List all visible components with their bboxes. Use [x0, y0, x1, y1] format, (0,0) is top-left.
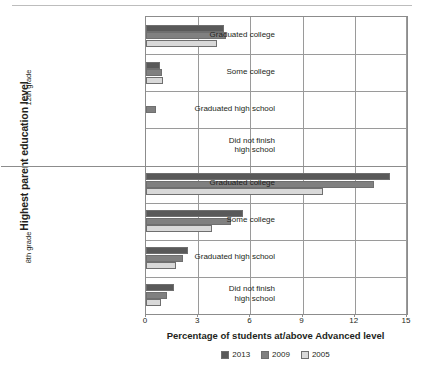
category-label-some-college: Some college: [115, 67, 275, 77]
legend-item-2005[interactable]: 2005: [301, 350, 330, 359]
x-tick-label-3: 3: [177, 316, 217, 325]
category-label-graduated-high-school: Graduated high school: [115, 252, 275, 262]
category-label-graduated-college: Graduated college: [115, 30, 275, 40]
x-tick-mark-6: [249, 314, 250, 317]
bar-2005-graduated-college[interactable]: [146, 40, 217, 47]
x-tick-label-0: 0: [125, 316, 165, 325]
bar-2005-some-college[interactable]: [146, 77, 163, 84]
category-label-graduated-college: Graduated college: [115, 178, 275, 188]
legend-label-2005: 2005: [312, 350, 330, 359]
legend-label-2013: 2013: [232, 350, 250, 359]
x-tick-mark-3: [197, 314, 198, 317]
chart-legend: 201320092005: [145, 350, 406, 359]
bar-2005-some-college[interactable]: [146, 225, 212, 232]
legend-swatch-2013: [221, 351, 229, 359]
legend-item-2013[interactable]: 2013: [221, 350, 250, 359]
x-tick-mark-9: [302, 314, 303, 317]
x-tick-label-9: 9: [282, 316, 322, 325]
category-label-some-college: Some college: [115, 215, 275, 225]
x-tick-label-12: 12: [334, 316, 374, 325]
group-label-8th-grade: 8th grade: [24, 218, 33, 278]
chart-figure: Highest parent education level 12th grad…: [0, 0, 424, 372]
top-divider-rule: [12, 5, 412, 6]
bar-2005-graduated-high-school[interactable]: [146, 262, 176, 269]
category-label-did-not-finish-high-school: Did not finishhigh school: [115, 136, 275, 155]
x-tick-mark-12: [354, 314, 355, 317]
legend-swatch-2005: [301, 351, 309, 359]
category-label-did-not-finish-high-school: Did not finishhigh school: [115, 284, 275, 303]
x-tick-mark-15: [406, 314, 407, 317]
legend-swatch-2009: [261, 351, 269, 359]
legend-label-2009: 2009: [272, 350, 290, 359]
x-tick-label-15: 15: [386, 316, 424, 325]
legend-item-2009[interactable]: 2009: [261, 350, 290, 359]
x-tick-mark-0: [145, 314, 146, 317]
x-axis-title: Percentage of students at/above Advanced…: [145, 330, 406, 341]
category-label-graduated-high-school: Graduated high school: [115, 104, 275, 114]
bar-2005-graduated-college[interactable]: [146, 188, 323, 195]
plot-area: [145, 16, 408, 315]
group-label-12th-grade: 12th grade: [24, 58, 33, 118]
x-tick-label-6: 6: [229, 316, 269, 325]
